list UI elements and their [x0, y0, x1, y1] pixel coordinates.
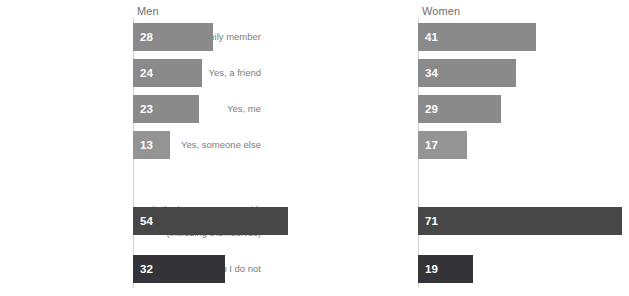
bar-value: 41: [418, 31, 438, 43]
bar-men-friend: 24: [133, 59, 202, 87]
panel-women: Women Yes, a family member 41 Yes, a fri…: [285, 0, 629, 296]
bar-men-me: 23: [133, 95, 199, 123]
chart-row: Total who know someone with a mental hea…: [285, 207, 629, 235]
bar-women-no-i-do-not: 19: [418, 255, 473, 283]
bar-value: 28: [133, 31, 153, 43]
bar-value: 13: [133, 139, 153, 151]
bar-value: 32: [133, 263, 153, 275]
bar-women-someone-else: 17: [418, 131, 467, 159]
bar-men-no-i-do-not: 32: [133, 255, 225, 283]
panel-title-men: Men: [137, 5, 159, 17]
bar-chart: Men Yes, a family member 28 Yes, a frien…: [0, 0, 629, 296]
chart-row: No I do not 19: [285, 255, 629, 283]
bar-value: 24: [133, 67, 153, 79]
bar-men-someone-else: 13: [133, 131, 170, 159]
bar-women-friend: 34: [418, 59, 516, 87]
bar-women-total-know-someone: 71: [418, 207, 622, 235]
bar-value: 54: [133, 215, 153, 227]
bar-women-me: 29: [418, 95, 501, 123]
bar-value: 17: [418, 139, 438, 151]
bar-value: 29: [418, 103, 438, 115]
chart-row: Yes, me 29: [285, 95, 629, 123]
chart-row: Yes, a friend 34: [285, 59, 629, 87]
bar-men-total-know-someone: 54: [133, 207, 288, 235]
chart-row: Yes, a family member 41: [285, 23, 629, 51]
chart-row: Yes, someone else 17: [285, 131, 629, 159]
bar-value: 19: [418, 263, 438, 275]
bar-value: 23: [133, 103, 153, 115]
bar-value: 71: [418, 215, 438, 227]
panel-title-women: Women: [422, 5, 460, 17]
bar-women-family-member: 41: [418, 23, 536, 51]
bar-men-family-member: 28: [133, 23, 213, 51]
bar-value: 34: [418, 67, 438, 79]
